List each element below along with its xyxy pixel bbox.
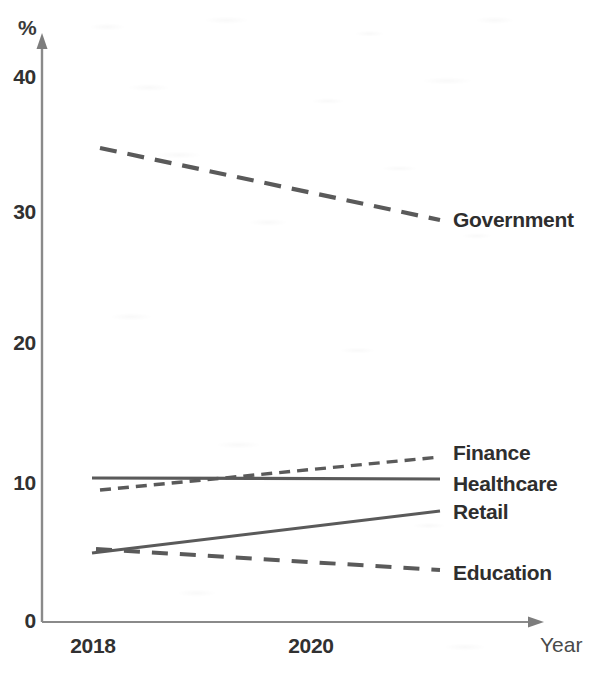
series-label-government: Government xyxy=(453,208,574,232)
series-line-healthcare xyxy=(92,478,440,479)
y-tick-label-0: 0 xyxy=(0,609,36,633)
chart-page: % 40 30 20 10 0 2018 2020 Year Governmen… xyxy=(0,0,596,674)
series-line-finance xyxy=(100,457,440,490)
series-label-education: Education xyxy=(453,561,552,585)
series-line-retail xyxy=(92,511,440,553)
series-label-retail: Retail xyxy=(453,500,508,524)
series-label-finance: Finance xyxy=(453,441,530,465)
y-tick-label-40: 40 xyxy=(0,65,36,89)
x-axis-title: Year xyxy=(540,633,582,657)
series-label-healthcare: Healthcare xyxy=(453,472,557,496)
x-tick-label-2018: 2018 xyxy=(63,634,123,658)
x-axis xyxy=(42,617,544,628)
y-axis xyxy=(37,33,48,622)
y-tick-label-30: 30 xyxy=(0,200,36,224)
x-tick-label-2020: 2020 xyxy=(281,634,341,658)
y-tick-label-20: 20 xyxy=(0,331,36,355)
y-tick-label-10: 10 xyxy=(0,471,36,495)
y-axis-unit-label: % xyxy=(18,16,36,40)
series-line-education xyxy=(96,549,440,570)
series-line-government xyxy=(100,148,440,220)
